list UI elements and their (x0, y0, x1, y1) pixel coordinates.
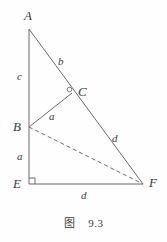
label-d-on-CF: d (112, 133, 118, 144)
vertex-label-E: E (13, 177, 21, 190)
segment-BF (29, 127, 143, 184)
label-c-on-AB: c (17, 71, 22, 82)
label-b-on-AC: b (58, 56, 64, 67)
label-a-on-BE: a (17, 151, 23, 162)
label-a-on-BC: a (49, 111, 55, 122)
segment-AF (29, 29, 143, 184)
right-angle-marker-E (29, 178, 35, 184)
geometry-diagram (0, 0, 167, 242)
vertex-label-F: F (149, 176, 157, 189)
figure-caption: 图 9.3 (0, 214, 167, 230)
label-d-on-EF: d (81, 190, 87, 201)
vertex-label-C: C (78, 85, 87, 98)
figure-container: A B C E F b c a a d d 图 9.3 (0, 0, 167, 242)
vertex-label-A: A (24, 9, 32, 22)
perpendicular-marker-C (67, 87, 72, 92)
vertex-label-B: B (13, 120, 21, 133)
